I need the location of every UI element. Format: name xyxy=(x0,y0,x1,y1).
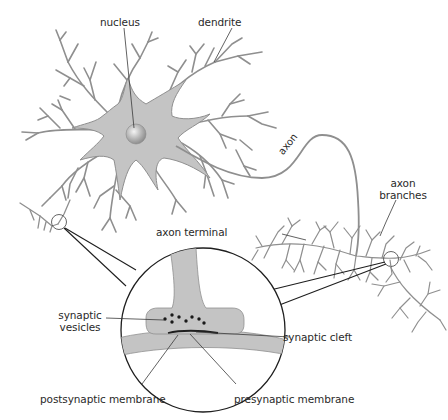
label-synaptic-vesicles: synaptic vesicles xyxy=(56,309,104,333)
label-nucleus: nucleus xyxy=(100,16,140,28)
neuron-diagram xyxy=(0,0,448,420)
label-axon-branches: axon branches xyxy=(378,177,428,201)
label-axon-branches-line2: branches xyxy=(378,189,428,201)
label-synaptic-vesicles-line1: synaptic xyxy=(56,309,104,321)
label-axon-terminal: axon terminal xyxy=(156,226,227,238)
synapse-inset xyxy=(110,248,300,412)
left-dendrite-fragment xyxy=(20,200,70,232)
label-presynaptic-membrane: presynaptic membrane xyxy=(234,393,354,405)
label-postsynaptic-membrane: postsynaptic membrane xyxy=(40,393,166,405)
label-dendrite: dendrite xyxy=(198,16,241,28)
nucleus xyxy=(126,124,146,144)
label-synaptic-vesicles-line2: vesicles xyxy=(56,321,104,333)
lower-right-dendrite xyxy=(372,266,446,332)
label-axon-branches-line1: axon xyxy=(378,177,428,189)
label-synaptic-cleft: synaptic cleft xyxy=(283,331,352,343)
